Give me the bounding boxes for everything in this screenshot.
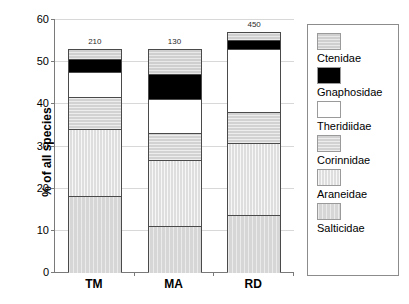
bar-segment-corinnidae[interactable] (149, 134, 201, 161)
x-axis-tick-mark (293, 272, 294, 276)
y-axis-tick-label: 10 (37, 224, 49, 235)
legend-label: Corinnidae (317, 153, 398, 167)
bar-segment-ctenidae[interactable] (69, 50, 121, 61)
legend-swatch-araneidae (317, 169, 341, 186)
chart-legend: CtenidaeGnaphosidaeTheridiidaeCorinnidae… (307, 24, 399, 276)
legend-swatch-theridiidae (317, 101, 341, 118)
legend-swatch-corinnidae (317, 135, 341, 152)
bar-segment-corinnidae[interactable] (228, 113, 280, 145)
bar-value-label: 210 (68, 37, 122, 46)
y-axis-tick-mark (51, 146, 55, 147)
bar-segment-araneidae[interactable] (228, 144, 280, 216)
legend-item-corinnidae[interactable]: Corinnidae (317, 135, 398, 167)
bar-value-label: 130 (148, 37, 202, 46)
stacked-bar[interactable] (148, 49, 202, 272)
legend-label: Ctenidae (317, 51, 398, 65)
bar-segment-theridiidae[interactable] (228, 50, 280, 113)
legend-item-gnaphosidae[interactable]: Gnaphosidae (317, 67, 398, 99)
x-axis-label-tm: TM (54, 278, 134, 291)
y-axis-tick-label: 20 (37, 182, 49, 193)
bar-segment-theridiidae[interactable] (149, 100, 201, 134)
x-axis-tick-mark (134, 272, 135, 276)
legend-label: Gnaphosidae (317, 85, 398, 99)
legend-label: Araneidae (317, 187, 398, 201)
y-axis-tick-mark (51, 19, 55, 20)
stacked-bar[interactable] (227, 32, 281, 272)
plot-area: 6050403020100 210130450 (54, 19, 294, 273)
bar-value-label: 450 (227, 20, 281, 29)
chart-figure: % of all species 6050403020100 210130450… (0, 0, 409, 304)
x-axis-tick-mark (213, 272, 214, 276)
stacked-bar[interactable] (68, 49, 122, 272)
legend-swatch-salticidae (317, 203, 341, 220)
legend-item-ctenidae[interactable]: Ctenidae (317, 33, 398, 65)
x-axis-label-ma: MA (134, 278, 214, 291)
bar-segment-araneidae[interactable] (69, 130, 121, 197)
bar-segment-ctenidae[interactable] (149, 50, 201, 75)
bar-segment-salticidae[interactable] (149, 227, 201, 273)
bar-segment-theridiidae[interactable] (69, 73, 121, 98)
legend-swatch-ctenidae (317, 33, 341, 50)
bar-segment-corinnidae[interactable] (69, 98, 121, 130)
y-axis-tick-mark (51, 103, 55, 104)
bar-segment-ctenidae[interactable] (228, 33, 280, 41)
bar-segment-gnaphosidae[interactable] (149, 75, 201, 100)
y-axis-tick-label: 50 (37, 56, 49, 67)
y-axis-tick-mark (51, 230, 55, 231)
y-axis-tick-mark (51, 188, 55, 189)
legend-label: Salticidae (317, 221, 398, 235)
legend-item-araneidae[interactable]: Araneidae (317, 169, 398, 201)
bar-segment-salticidae[interactable] (228, 216, 280, 273)
y-axis-tick-label: 30 (37, 140, 49, 151)
legend-swatch-gnaphosidae (317, 67, 341, 84)
legend-item-salticidae[interactable]: Salticidae (317, 203, 398, 235)
bar-segment-gnaphosidae[interactable] (228, 41, 280, 49)
y-axis-tick-label: 40 (37, 98, 49, 109)
y-axis-tick-mark (51, 61, 55, 62)
bar-segment-salticidae[interactable] (69, 197, 121, 273)
y-axis-tick-label: 0 (43, 267, 49, 278)
x-axis-label-rd: RD (213, 278, 293, 291)
bar-segment-araneidae[interactable] (149, 161, 201, 226)
legend-label: Theridiidae (317, 119, 398, 133)
bar-segment-gnaphosidae[interactable] (69, 60, 121, 73)
y-axis-tick-label: 60 (37, 14, 49, 25)
y-axis-tick-mark (51, 272, 55, 273)
legend-item-theridiidae[interactable]: Theridiidae (317, 101, 398, 133)
